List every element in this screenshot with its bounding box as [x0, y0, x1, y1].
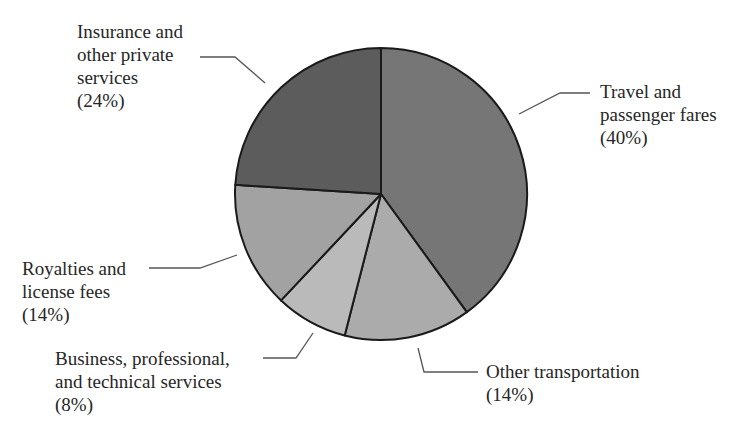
label-value: (24%): [77, 89, 183, 112]
label-travel: Travel and passenger fares (40%): [600, 80, 717, 149]
label-line: passenger fares: [600, 103, 717, 126]
pie-slice-insurance-and-other-private-services: [235, 48, 381, 194]
leader-line-royalties: [149, 255, 237, 268]
label-value: (14%): [486, 383, 640, 406]
label-line: Business, professional,: [55, 347, 230, 370]
leader-line-other-transportation: [418, 348, 478, 372]
label-business: Business, professional, and technical se…: [55, 347, 230, 416]
label-line: services: [77, 66, 183, 89]
leader-line-insurance: [200, 57, 265, 83]
label-line: Other transportation: [486, 360, 640, 383]
label-line: Insurance and: [77, 20, 183, 43]
label-line: Travel and: [600, 80, 717, 103]
label-other-transportation: Other transportation (14%): [486, 360, 640, 406]
label-line: other private: [77, 43, 183, 66]
label-royalties: Royalties and license fees (14%): [22, 257, 126, 326]
label-line: license fees: [22, 280, 126, 303]
label-line: and technical services: [55, 370, 230, 393]
leader-line-business: [263, 333, 313, 358]
label-value: (40%): [600, 126, 717, 149]
label-insurance: Insurance and other private services (24…: [77, 20, 183, 112]
label-line: Royalties and: [22, 257, 126, 280]
label-value: (14%): [22, 303, 126, 326]
leader-line-travel: [519, 93, 590, 114]
label-value: (8%): [55, 393, 230, 416]
